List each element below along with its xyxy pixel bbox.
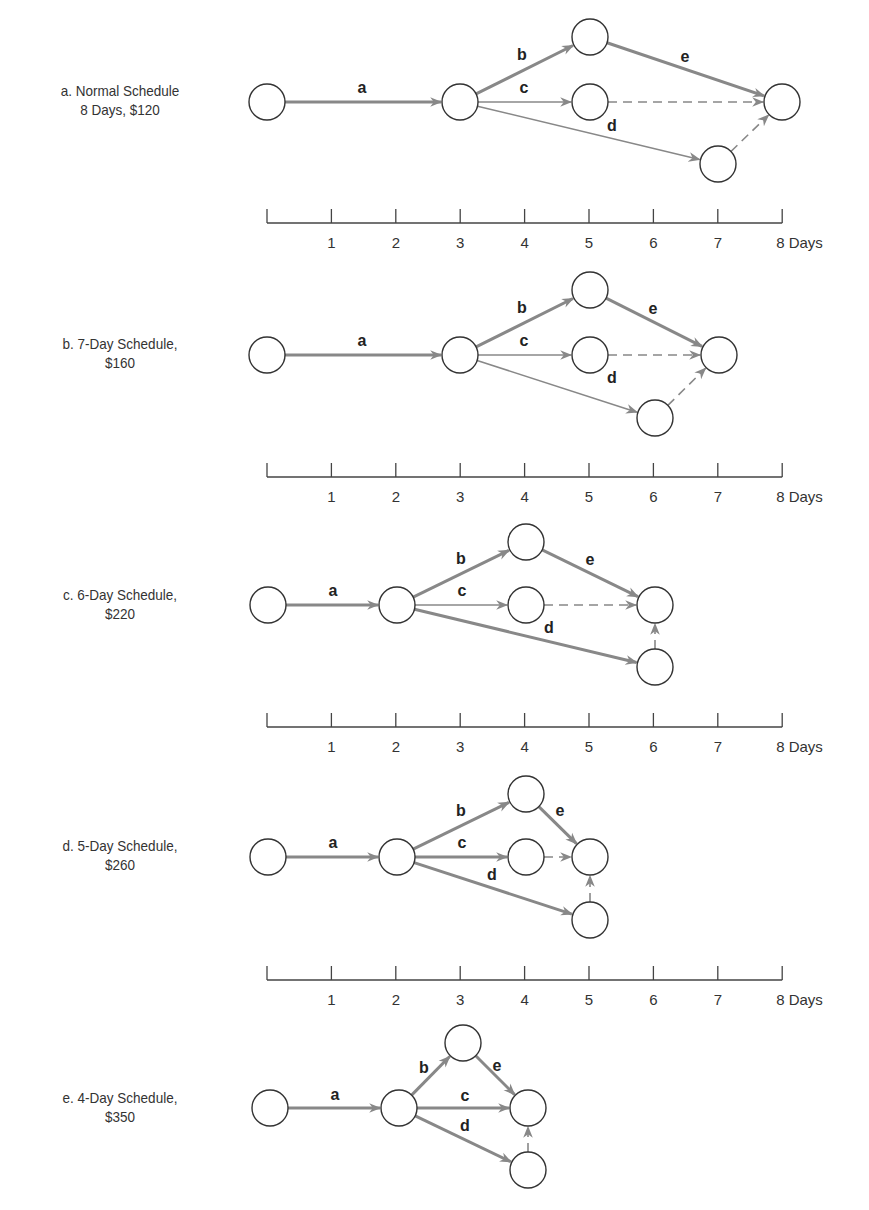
timeline-tick-label: 7: [714, 991, 722, 1008]
event-node: [637, 400, 673, 436]
event-node: [508, 524, 544, 560]
timeline-tick-label: 5: [585, 738, 593, 755]
activity-label-e: e: [681, 48, 690, 65]
event-node: [510, 1090, 546, 1126]
timeline-tick-label: 2: [392, 991, 400, 1008]
timeline-tick-label: 4: [520, 488, 528, 505]
event-node: [764, 84, 800, 120]
timeline-tick-label: 6: [649, 738, 657, 755]
timeline-tick-label: 6: [649, 991, 657, 1008]
event-node: [508, 776, 544, 812]
event-node: [379, 587, 415, 623]
event-node: [510, 1152, 546, 1188]
event-node: [572, 272, 608, 308]
timeline-tick-label: 4: [520, 234, 528, 251]
timeline-tick-label: 5: [585, 488, 593, 505]
panel-b-timeline: 12345678 Days: [267, 463, 823, 505]
activity-label-b: b: [419, 1059, 429, 1076]
activity-label-d: d: [607, 369, 617, 386]
activity-label-e: e: [586, 551, 595, 568]
event-node: [572, 839, 608, 875]
event-node: [445, 1025, 481, 1061]
panel-a-labels: abcde: [358, 46, 690, 134]
panel-b-arrows: [285, 298, 705, 412]
activity-label-e: e: [649, 300, 658, 317]
event-node: [701, 337, 737, 373]
timeline-tick-label: 2: [392, 488, 400, 505]
activity-label-d: d: [607, 117, 617, 134]
activity-label-a: a: [331, 1086, 340, 1103]
timeline-tick-label: 3: [456, 738, 464, 755]
activity-label-c: c: [520, 79, 529, 96]
timeline-tick-label: 6: [649, 488, 657, 505]
activity-label-c: c: [461, 1087, 470, 1104]
event-node: [637, 587, 673, 623]
timeline-tick-label: 7: [714, 738, 722, 755]
timeline-tick-label: 7: [714, 234, 722, 251]
timeline-tick-label: 3: [456, 488, 464, 505]
event-node: [249, 337, 285, 373]
timeline-tick-label: 1: [327, 991, 335, 1008]
activity-label-c: c: [458, 582, 467, 599]
event-node: [442, 337, 478, 373]
timeline-tick-label: 4: [520, 991, 528, 1008]
event-node: [381, 1090, 417, 1126]
event-node: [252, 1090, 288, 1126]
event-node: [637, 649, 673, 685]
event-node: [572, 902, 608, 938]
activity-label-d: d: [487, 866, 497, 883]
event-node: [250, 587, 286, 623]
timeline-tick-label: 6: [649, 234, 657, 251]
event-node: [572, 337, 608, 373]
event-node: [508, 587, 544, 623]
timeline-tick-label: 8 Days: [776, 234, 823, 251]
timeline-tick-label: 8 Days: [776, 991, 823, 1008]
event-node: [700, 146, 736, 182]
day-timelines: 12345678 Days12345678 Days12345678 Days1…: [267, 209, 823, 1008]
activity-label-c: c: [458, 834, 467, 851]
timeline-tick-label: 7: [714, 488, 722, 505]
activity-b-arrow: [412, 1057, 450, 1096]
activity-label-b: b: [456, 802, 466, 819]
timeline-tick-label: 3: [456, 234, 464, 251]
panel-c-timeline: 12345678 Days: [267, 713, 823, 755]
timeline-tick-label: 4: [520, 738, 528, 755]
activity-label-d: d: [460, 1117, 470, 1134]
event-node: [442, 84, 478, 120]
activity-label-c: c: [520, 332, 529, 349]
event-node: [249, 84, 285, 120]
timeline-tick-label: 3: [456, 991, 464, 1008]
timeline-tick-label: 2: [392, 234, 400, 251]
timeline-tick-label: 5: [585, 991, 593, 1008]
timeline-tick-label: 1: [327, 234, 335, 251]
activity-label-e: e: [556, 802, 565, 819]
activity-label-a: a: [329, 834, 338, 851]
activity-label-a: a: [329, 582, 338, 599]
network-diagrams-canvas: abcdeabcdeabcdeabcdeabcde 12345678 Days1…: [0, 0, 869, 1210]
event-node: [379, 839, 415, 875]
activity-label-b: b: [517, 46, 527, 63]
activity-label-b: b: [517, 299, 527, 316]
timeline-tick-label: 1: [327, 488, 335, 505]
panel-b-labels: abcde: [358, 299, 658, 386]
event-node: [572, 19, 608, 55]
timeline-tick-label: 2: [392, 738, 400, 755]
timeline-tick-label: 5: [585, 234, 593, 251]
dummy-activity-arrow: [668, 368, 706, 405]
timeline-tick-label: 1: [327, 738, 335, 755]
activity-label-a: a: [358, 79, 367, 96]
event-node: [572, 84, 608, 120]
panel-a-timeline: 12345678 Days: [267, 209, 823, 251]
dummy-activity-arrow: [731, 115, 768, 151]
activity-label-a: a: [358, 332, 367, 349]
event-node: [250, 839, 286, 875]
activity-labels: abcdeabcdeabcdeabcdeabcde: [329, 46, 690, 1134]
activity-label-d: d: [544, 619, 554, 636]
event-node: [508, 839, 544, 875]
panel-c-labels: abcde: [329, 550, 595, 636]
activity-label-e: e: [493, 1057, 502, 1074]
panel-e-labels: abcde: [331, 1057, 502, 1134]
timeline-tick-label: 8 Days: [776, 738, 823, 755]
timeline-tick-label: 8 Days: [776, 488, 823, 505]
activity-label-b: b: [456, 550, 466, 567]
